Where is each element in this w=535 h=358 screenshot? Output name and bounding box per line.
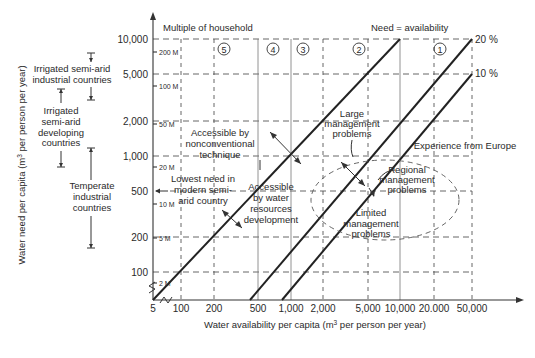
svg-text:50 M: 50 M: [159, 121, 175, 128]
zone-4: 4: [270, 45, 275, 55]
svg-text:problems: problems: [332, 128, 371, 139]
svg-text:countries: countries: [73, 202, 112, 213]
svg-text:100: 100: [131, 267, 148, 278]
ten-percent-label: 10 %: [475, 68, 498, 79]
zone-markers: 5 4 3 2 1: [218, 43, 446, 55]
svg-text:1,000: 1,000: [278, 303, 303, 314]
svg-text:technique: technique: [199, 149, 240, 160]
svg-text:2,000: 2,000: [123, 116, 148, 127]
limited-management-annotation: Limited: [356, 207, 387, 218]
zone-3: 3: [300, 45, 305, 55]
experience-europe-annotation: Experience from Europe: [414, 140, 516, 151]
svg-text:development: development: [244, 214, 299, 225]
svg-text:2,000: 2,000: [310, 303, 335, 314]
svg-text:2 M: 2 M: [159, 280, 171, 287]
svg-text:nonconventional: nonconventional: [185, 138, 254, 149]
svg-text:20.000: 20.000: [419, 303, 450, 314]
water-resources-annotation: Accessible: [248, 181, 293, 192]
nonconventional-annotation: Accessible by: [191, 127, 249, 138]
svg-text:industrial: industrial: [73, 191, 111, 202]
zone-5: 5: [221, 45, 226, 55]
svg-text:50,000: 50,000: [457, 303, 488, 314]
svg-text:1,000: 1,000: [123, 151, 148, 162]
water-availability-diagram: 10,000 5,000 2,000 1,000 500 200 100 200…: [0, 0, 535, 358]
y-tick-labels: 10,000 5,000 2,000 1,000 500 200 100: [117, 34, 148, 278]
vertical-gridlines: [181, 39, 472, 300]
x-tick-labels: 5 100 200 500 1,000 2,000 5,000 10,000 2…: [150, 303, 488, 314]
x-axis-title: Water availability per capita (m3 per pe…: [204, 319, 426, 330]
svg-text:200: 200: [206, 303, 223, 314]
annotations: Accessible by nonconventional technique …: [171, 108, 516, 239]
lowest-need-annotation: Lowest need in: [171, 173, 235, 184]
svg-text:5,000: 5,000: [123, 69, 148, 80]
household-multiple-labels: 200 M 100 M 50 M 20 M 10 M 5 M 2 M: [159, 49, 179, 287]
svg-text:200: 200: [131, 232, 148, 243]
svg-text:resources: resources: [250, 203, 292, 214]
svg-text:industrial countries: industrial countries: [32, 74, 111, 85]
svg-text:500: 500: [131, 186, 148, 197]
left-categories: Irrigated semi-arid industrial countries…: [32, 53, 114, 248]
svg-text:5 M: 5 M: [159, 235, 171, 242]
svg-text:modern semi-: modern semi-: [174, 184, 232, 195]
svg-text:20 M: 20 M: [159, 164, 175, 171]
twenty-percent-line: [250, 39, 472, 300]
svg-text:100: 100: [173, 303, 190, 314]
multiple-of-household-label: Multiple of household: [163, 22, 253, 33]
svg-text:5,000: 5,000: [355, 303, 380, 314]
y-axis-title: Water need per capita (m3 per person per…: [16, 65, 27, 264]
need-equals-availability-line: [153, 39, 400, 300]
svg-text:200 M: 200 M: [159, 49, 179, 56]
svg-text:10,000: 10,000: [117, 34, 148, 45]
irrigated-developing-label: Irrigated: [44, 105, 79, 116]
svg-text:10 M: 10 M: [159, 201, 175, 208]
zone-1: 1: [437, 45, 442, 55]
zone-2: 2: [356, 45, 361, 55]
temperate-industrial-label: Temperate: [70, 180, 115, 191]
svg-text:countries: countries: [42, 137, 81, 148]
svg-text:arid country: arid country: [178, 195, 228, 206]
svg-text:semi-arid: semi-arid: [41, 116, 80, 127]
svg-text:problems: problems: [387, 184, 426, 195]
need-equals-availability-label: Need = availability: [371, 22, 449, 33]
svg-text:5: 5: [150, 303, 156, 314]
svg-text:by water: by water: [253, 192, 289, 203]
ten-percent-line: [282, 74, 472, 300]
svg-text:500: 500: [250, 303, 267, 314]
irrigated-industrial-label: Irrigated semi-arid: [34, 63, 111, 74]
svg-text:100 M: 100 M: [159, 83, 179, 90]
svg-text:10,000: 10,000: [385, 303, 416, 314]
twenty-percent-label: 20 %: [475, 34, 498, 45]
